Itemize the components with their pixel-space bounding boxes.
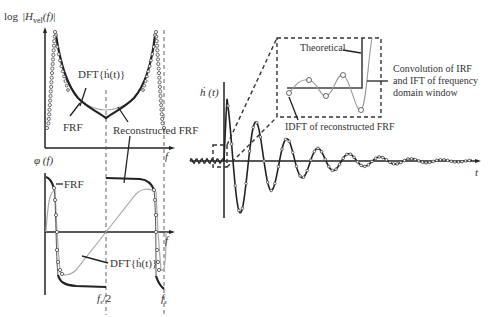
magnitude-marker [50, 85, 53, 88]
convolution-label-line2: and IFT of frequency [393, 75, 478, 86]
impulse-marker [335, 168, 338, 171]
impulse-marker [418, 160, 421, 163]
magnitude-marker [51, 62, 54, 65]
impulse-marker [324, 158, 327, 161]
impulse-marker [342, 157, 345, 160]
magnitude-marker [65, 84, 68, 87]
impulse-marker [432, 160, 435, 163]
impulse-marker [281, 148, 284, 151]
impulse-marker [367, 163, 370, 166]
theoretical-label: Theoretical [300, 42, 346, 53]
impulse-marker [255, 121, 258, 124]
impulse-marker [277, 165, 280, 168]
inset-marker [359, 108, 364, 113]
magnitude-x-arrow-icon [169, 146, 175, 150]
magnitude-marker [158, 81, 161, 84]
phase-marker [56, 260, 59, 263]
magnitude-marker [48, 113, 51, 116]
impulse-marker [396, 163, 399, 166]
magnitude-marker [160, 113, 163, 116]
impulse-marker [400, 161, 403, 164]
magnitude-marker [53, 40, 56, 43]
magnitude-marker [142, 89, 145, 92]
magnitude-marker [160, 104, 163, 107]
impulse-ylabel: ḣ (t) [200, 86, 219, 99]
magnitude-marker [148, 65, 151, 68]
phase-panel: φ (f) FRF DFT{ḣ(t)} f fs/2 fs [34, 154, 175, 306]
impulse-marker [439, 158, 442, 161]
impulse-marker [360, 164, 363, 167]
magnitude-marker [160, 108, 163, 111]
phase-xlabel: f [165, 234, 170, 246]
impulse-marker [468, 159, 471, 162]
inset-marker [341, 73, 346, 78]
phase-marker [58, 268, 61, 271]
half-sampling-tick-label: fs/2 [97, 292, 111, 306]
impulse-marker [371, 160, 374, 163]
phase-marker [54, 213, 57, 216]
magnitude-marker [48, 104, 51, 107]
impulse-marker [310, 159, 313, 162]
magnitude-marker [64, 80, 67, 83]
impulse-marker [317, 147, 320, 150]
impulse-marker [446, 159, 449, 162]
zoom-projection-line-bottom [227, 117, 277, 167]
impulse-marker [436, 159, 439, 162]
magnitude-marker [67, 89, 70, 92]
magnitude-marker [155, 44, 158, 47]
impulse-marker [461, 160, 464, 163]
magnitude-marker [52, 49, 55, 52]
impulse-marker [284, 138, 287, 141]
phase-frf-label: FRF [64, 178, 84, 190]
impulse-marker [421, 161, 424, 164]
impulse-marker [263, 160, 266, 163]
magnitude-marker [158, 85, 161, 88]
magnitude-marker [154, 30, 157, 33]
phase-marker [60, 272, 63, 275]
phase-ylabel: φ (f) [34, 154, 54, 167]
magnitude-marker [51, 58, 54, 61]
phase-dft-leader-line [82, 256, 108, 263]
magnitude-marker [52, 44, 55, 47]
magnitude-marker [48, 108, 51, 111]
magnitude-marker [52, 53, 55, 56]
impulse-marker [252, 126, 255, 129]
magnitude-marker [156, 58, 159, 61]
impulse-marker [227, 105, 230, 108]
impulse-marker [320, 151, 323, 154]
zoom-projection-line-top [227, 38, 277, 145]
phase-marker [155, 248, 158, 251]
impulse-marker [454, 161, 457, 164]
magnitude-marker [151, 53, 154, 56]
phase-marker [157, 268, 160, 271]
magnitude-marker [157, 72, 160, 75]
magnitude-marker [51, 67, 54, 70]
magnitude-marker [159, 90, 162, 93]
diagram-canvas: log |Hvel(f)| DFT{ḣ(t)} FRF Reconstructe… [0, 0, 501, 317]
impulse-x-arrow-icon [475, 159, 481, 163]
phase-marker [154, 230, 157, 233]
phase-frf-curve-high [106, 178, 154, 190]
magnitude-marker [49, 94, 52, 97]
impulse-marker [356, 161, 359, 164]
magnitude-marker [161, 117, 164, 120]
impulse-marker [346, 153, 349, 156]
impulse-marker [270, 189, 273, 192]
impulse-response-curve [224, 99, 472, 213]
magnitude-marker [50, 81, 53, 84]
impulse-marker [245, 182, 248, 185]
impulse-marker [238, 209, 241, 212]
impulse-marker [230, 143, 233, 146]
magnitude-marker [143, 84, 146, 87]
reconstructed-phase-leader-line [124, 136, 130, 183]
magnitude-marker [154, 34, 157, 37]
impulse-marker [234, 185, 237, 188]
inset-marker [307, 78, 312, 83]
impulse-marker [414, 158, 417, 161]
magnitude-marker [157, 67, 160, 70]
phase-marker [154, 213, 157, 216]
magnitude-marker [156, 49, 159, 52]
impulse-marker [292, 151, 295, 154]
phase-marker [153, 198, 156, 201]
impulse-marker [338, 163, 341, 166]
